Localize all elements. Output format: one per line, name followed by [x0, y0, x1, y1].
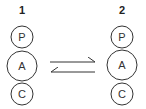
state-1: 1 P A C [7, 4, 37, 105]
circle-label: P [18, 31, 25, 43]
circle-label: C [18, 88, 26, 100]
state-label: 2 [119, 4, 125, 16]
state-label: 1 [19, 4, 25, 16]
circle-label: A [18, 60, 26, 72]
circle-p: P [11, 26, 33, 48]
circle-a: A [107, 50, 137, 80]
circle-a: A [7, 51, 37, 81]
circle-c: C [11, 83, 33, 105]
circle-label: C [118, 88, 126, 100]
circle-label: A [118, 59, 126, 71]
state-2: 2 P A C [107, 4, 137, 105]
circle-c: C [111, 83, 133, 105]
circle-label: P [118, 31, 125, 43]
equilibrium-diagram: 1 P A C 2 P A C [0, 0, 146, 109]
circle-p: P [111, 26, 133, 48]
equilibrium-arrows [50, 62, 95, 72]
